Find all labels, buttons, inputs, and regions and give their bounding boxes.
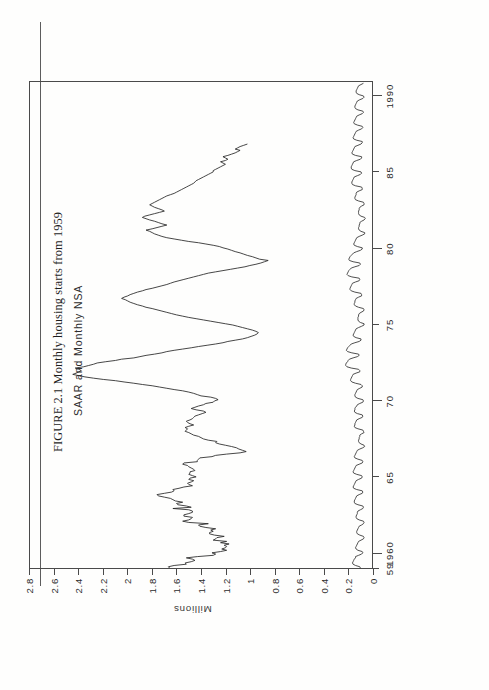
y-axis-tick — [225, 569, 226, 575]
y-axis-title: Millions — [132, 604, 252, 615]
y-axis-tick-label: 1 — [244, 578, 255, 584]
y-axis-tick — [348, 569, 349, 575]
x-axis-tick-label: 80 — [384, 243, 395, 255]
x-axis-tick-label: 75 — [384, 319, 395, 331]
y-axis-tick-label: 2 — [121, 578, 132, 584]
x-axis-tick-label: 85 — [384, 166, 395, 178]
y-axis-tick-label: 2.8 — [23, 578, 34, 593]
y-axis-tick — [299, 569, 300, 575]
x-axis-tick-label: 1990 — [384, 84, 395, 109]
y-axis-tick — [274, 569, 275, 575]
x-axis-tick — [373, 400, 382, 401]
y-axis-tick-label: 2.2 — [97, 578, 108, 593]
series-line — [345, 83, 365, 568]
y-axis-tick-label: 0.8 — [269, 578, 280, 593]
y-axis-tick — [323, 569, 324, 575]
series-line — [72, 144, 267, 568]
y-axis-tick — [78, 569, 79, 575]
y-axis-tick — [53, 569, 54, 575]
y-axis-tick — [176, 569, 177, 575]
x-axis-tick-label: 1960 — [384, 541, 395, 566]
y-axis-tick-label: 0.4 — [318, 578, 329, 593]
y-axis-tick-label: 2.4 — [72, 578, 83, 593]
x-axis-tick-label: 70 — [384, 395, 395, 407]
y-axis: Millions 00.20.40.60.811.21.41.61.822.22… — [29, 569, 373, 621]
x-axis-tick — [373, 477, 379, 478]
x-axis-tick — [373, 324, 379, 325]
y-axis-tick — [250, 569, 251, 575]
series-annotation-label: SAAR and Monthly NSA — [72, 285, 84, 416]
y-axis-tick-label: 0 — [367, 578, 378, 584]
x-axis-tick — [373, 248, 382, 249]
y-axis-tick-label: 1.8 — [146, 578, 157, 593]
y-axis-tick-label: 1.4 — [195, 578, 206, 593]
y-axis-tick-label: 2.6 — [48, 578, 59, 593]
y-axis-tick — [373, 569, 374, 575]
y-axis-tick — [201, 569, 202, 575]
y-axis-tick — [29, 569, 30, 575]
x-axis-tick — [373, 568, 379, 569]
y-axis-tick — [127, 569, 128, 575]
x-axis-tick — [373, 172, 379, 173]
x-axis-tick-label: 65 — [384, 471, 395, 483]
x-axis-tick — [373, 95, 382, 96]
chart-rotated-wrapper: SAAR and Monthly NSA Millions 00.20.40.6… — [7, 61, 407, 621]
y-axis-tick-label: 1.2 — [220, 578, 231, 593]
y-axis-tick — [102, 569, 103, 575]
y-axis-tick-label: 0.2 — [342, 578, 353, 593]
x-axis-tick — [373, 553, 382, 554]
y-axis-tick-label: 0.6 — [293, 578, 304, 593]
plot-area: SAAR and Monthly NSA — [29, 81, 373, 569]
y-axis-tick — [151, 569, 152, 575]
y-axis-tick-label: 1.6 — [170, 578, 181, 593]
x-axis: 59196065707580851990 — [373, 81, 407, 569]
